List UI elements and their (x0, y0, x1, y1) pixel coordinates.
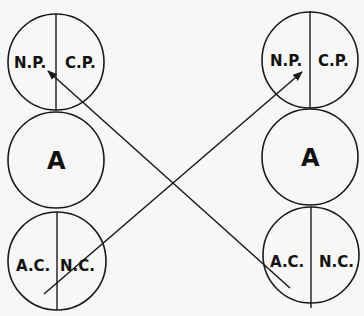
label-np: N.P. (270, 52, 302, 70)
left-bottom-circle: A.C. N.C. (8, 212, 106, 310)
left-top-circle: N.P. C.P. (8, 14, 104, 110)
left-middle-circle: A (8, 112, 104, 208)
label-ac: A.C. (270, 253, 304, 271)
right-column: N.P. C.P. A A.C. N.C. (262, 11, 359, 308)
label-np: N.P. (14, 54, 46, 72)
label-a: A (301, 144, 320, 172)
right-middle-circle: A (262, 109, 358, 205)
label-cp: C.P. (318, 52, 349, 70)
right-bottom-circle: A.C. N.C. (263, 207, 359, 308)
crossed-arrows-diagram: N.P. C.P. A A.C. N.C. N.P. C.P. A A. (0, 0, 364, 316)
label-ac: A.C. (16, 257, 50, 275)
left-column: N.P. C.P. A A.C. N.C. (8, 14, 106, 310)
label-cp: C.P. (65, 54, 96, 72)
label-nc: N.C. (319, 253, 354, 271)
label-a: A (47, 147, 66, 175)
arrow-ac-right-to-np-left (48, 71, 290, 288)
